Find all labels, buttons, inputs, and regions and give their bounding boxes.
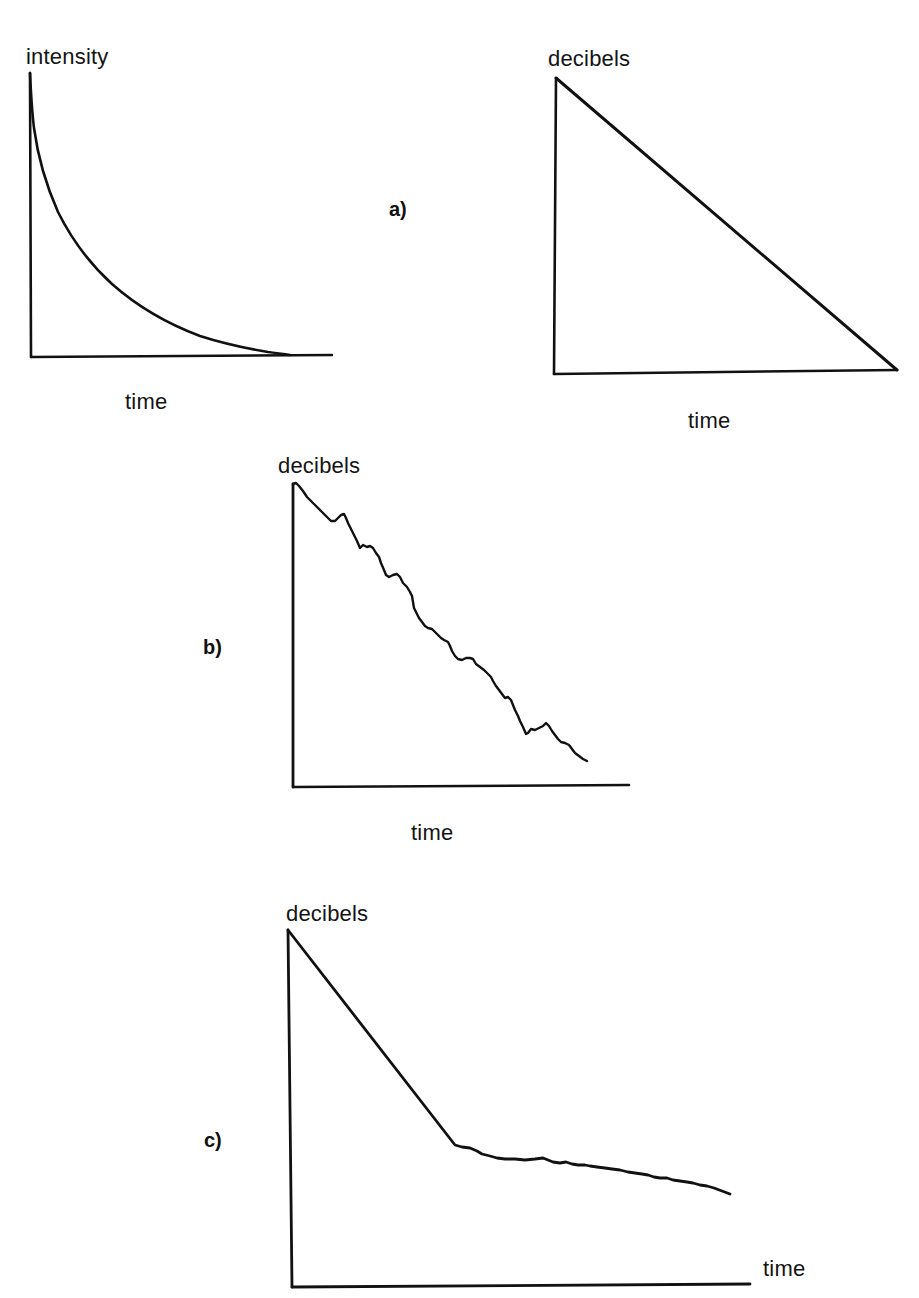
chart-c-x-axis (292, 1284, 750, 1287)
chart-a-right (554, 78, 897, 374)
chart-c (288, 930, 750, 1287)
chart-a-left (30, 73, 332, 357)
chart-c-curve (288, 930, 730, 1194)
chart-a-right-x-axis (554, 370, 897, 374)
chart-c-y-axis (288, 930, 292, 1287)
chart-a-left-y-axis (30, 73, 31, 357)
chart-b-curve (293, 483, 587, 761)
figure-canvas (0, 0, 919, 1298)
chart-a-right-line (556, 78, 897, 370)
chart-b (293, 483, 629, 787)
chart-a-left-curve (30, 73, 290, 355)
chart-b-x-axis (293, 785, 629, 787)
chart-a-right-y-axis (554, 78, 556, 374)
